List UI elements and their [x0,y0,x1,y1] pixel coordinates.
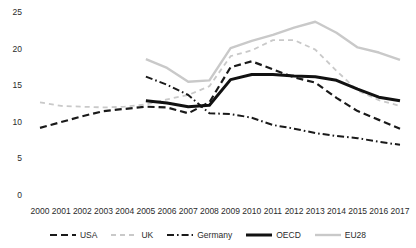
legend-item-uk[interactable]: UK [111,231,153,240]
legend-swatch-uk-icon [111,231,137,239]
legend-label-uk: UK [141,231,153,240]
legend-label-germany: Germany [197,231,232,240]
series-line-germany [146,77,400,145]
legend-item-germany[interactable]: Germany [167,231,232,240]
legend-item-usa[interactable]: USA [50,231,97,240]
series-line-eu28 [146,22,400,82]
legend-swatch-eu28-icon [315,231,341,239]
legend-swatch-germany-icon [167,231,193,239]
legend-swatch-oecd-icon [246,231,272,239]
series-line-uk [40,40,400,107]
legend-swatch-usa-icon [50,231,76,239]
chart-legend: USAUKGermanyOECDEU28 [0,226,416,244]
legend-item-oecd[interactable]: OECD [246,231,301,240]
legend-label-eu28: EU28 [345,231,366,240]
plot-area [0,0,416,248]
line-chart: 0510152025 20002001200220032004200520062… [0,0,416,248]
legend-label-usa: USA [80,231,97,240]
legend-item-eu28[interactable]: EU28 [315,231,366,240]
legend-label-oecd: OECD [276,231,301,240]
